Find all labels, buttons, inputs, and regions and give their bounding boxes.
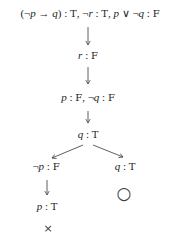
tableau-proof-tree: (¬p → q) : T, ¬r : T, p ∨ ¬q : F r : F p… <box>0 0 180 241</box>
open-branch-marker: ○ <box>117 185 132 202</box>
node-step3: q : T <box>78 128 99 142</box>
node-step2: p : F, ¬q : F <box>61 91 115 105</box>
node-left-branch: ¬p : F <box>32 160 59 174</box>
node-right-branch: q : T <box>115 160 136 174</box>
node-root: (¬p → q) : T, ¬r : T, p ∨ ¬q : F <box>20 7 159 21</box>
arrow-step3-to-right <box>93 145 123 157</box>
arrow-step3-to-left <box>52 145 83 158</box>
node-left-child: p : T <box>37 200 58 214</box>
node-step1: r : F <box>78 49 98 63</box>
closed-branch-marker: × <box>43 223 52 234</box>
tree-edges <box>0 0 180 241</box>
